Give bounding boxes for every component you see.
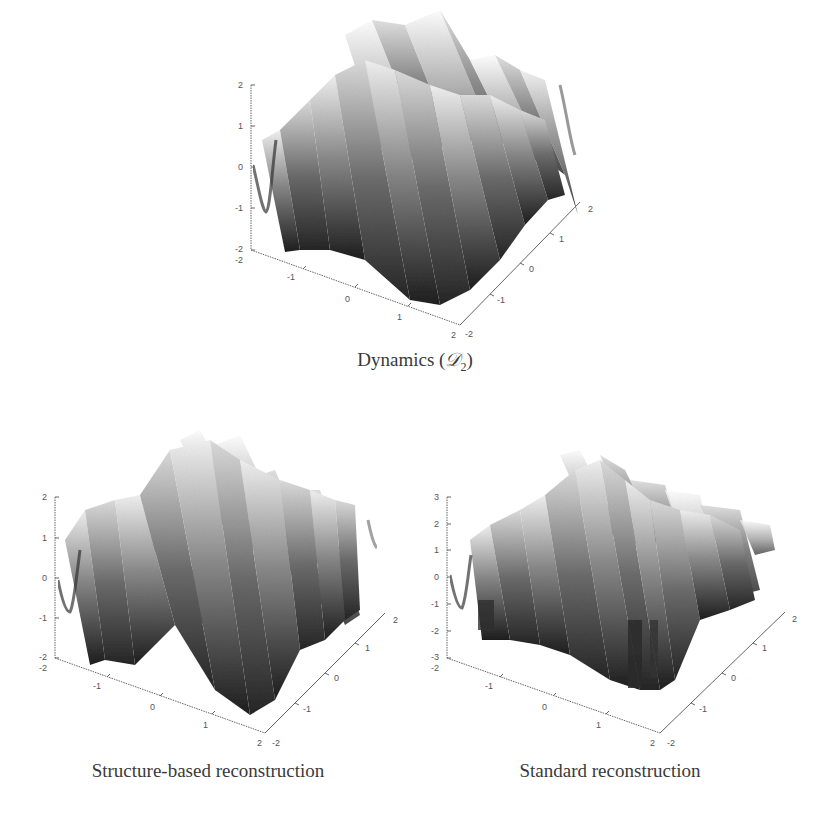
svg-text:-2: -2	[431, 626, 439, 636]
svg-text:-2: -2	[667, 738, 675, 748]
svg-text:-1: -1	[699, 704, 707, 714]
svg-text:0: 0	[542, 702, 547, 712]
svg-text:1: 1	[434, 545, 439, 555]
svg-text:2: 2	[650, 738, 655, 748]
svg-text:-3: -3	[431, 652, 439, 662]
plot-standard: 3 2 1 0 -1 -2 -3 -2 -1 0 1 2 -2 -1 0 1 2…	[0, 0, 831, 826]
svg-text:1: 1	[762, 643, 767, 653]
svg-text:0: 0	[731, 673, 736, 683]
svg-text:0: 0	[434, 572, 439, 582]
caption-standard: Standard reconstruction	[520, 760, 701, 782]
z-tick-labels-standard: 3 2 1 0 -1 -2 -3	[431, 492, 439, 662]
svg-text:1: 1	[596, 720, 601, 730]
surface-standard	[450, 450, 775, 690]
svg-text:3: 3	[434, 492, 439, 502]
svg-text:2: 2	[792, 614, 797, 624]
surface-plot-standard: 3 2 1 0 -1 -2 -3 -2 -1 0 1 2 -2 -1 0 1 2	[0, 0, 831, 826]
svg-text:2: 2	[434, 519, 439, 529]
svg-text:-1: -1	[485, 681, 493, 691]
svg-text:-2: -2	[431, 663, 439, 673]
svg-text:-1: -1	[431, 599, 439, 609]
